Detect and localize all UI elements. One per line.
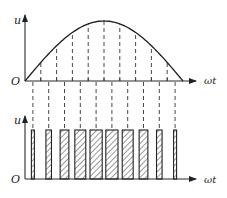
bottom-plot: u ωt O xyxy=(11,114,217,186)
pwm-pulse xyxy=(90,130,102,179)
top-x-axis-label: ωt xyxy=(204,75,217,86)
top-plot: u ωt O xyxy=(11,14,217,88)
spwm-diagram: u ωt O u ωt O xyxy=(0,0,227,198)
pwm-pulse xyxy=(60,130,69,179)
pwm-pulse xyxy=(122,130,133,179)
pwm-pulse xyxy=(139,130,148,179)
pwm-pulse xyxy=(106,130,118,179)
segment-lines xyxy=(41,21,167,81)
pulse-train xyxy=(31,130,176,179)
bottom-x-axis-label: ωt xyxy=(204,174,217,185)
top-y-axis-label: u xyxy=(14,14,21,27)
pwm-pulse xyxy=(174,130,177,179)
pwm-pulse xyxy=(157,130,163,179)
top-origin-label: O xyxy=(11,75,20,88)
bottom-origin-label: O xyxy=(11,173,20,186)
projection-dashes xyxy=(33,82,175,130)
pwm-pulse xyxy=(75,130,86,179)
pwm-pulse xyxy=(31,130,34,179)
bottom-y-axis-label: u xyxy=(14,114,21,127)
pwm-pulse xyxy=(46,130,52,179)
